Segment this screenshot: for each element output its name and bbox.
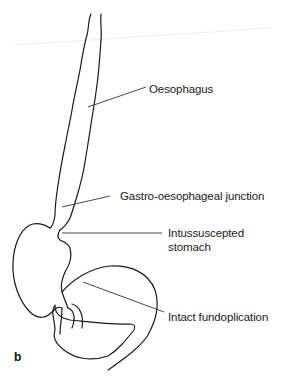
wrap-strand-1 bbox=[60, 308, 62, 334]
scan-artifact-line bbox=[15, 28, 270, 45]
wrap-strand-2 bbox=[68, 308, 74, 328]
label-oesophagus: Oesophagus bbox=[149, 83, 213, 96]
oesophagus-left-wall bbox=[50, 14, 91, 228]
label-fundoplication: Intact fundoplication bbox=[168, 311, 268, 324]
oesophagus-right-wall bbox=[60, 14, 101, 230]
label-intussuscepted-line1: Intussuscepted bbox=[168, 227, 244, 240]
leader-fundoplication bbox=[83, 282, 164, 312]
panel-label: b bbox=[14, 350, 21, 364]
fundoplication-lower-lobe bbox=[53, 305, 135, 359]
ge-junction-notch bbox=[58, 230, 71, 308]
label-ge-junction: Gastro-oesophageal junction bbox=[120, 190, 264, 203]
leader-ge-junction bbox=[62, 196, 110, 207]
stomach-outline bbox=[13, 224, 62, 318]
label-intussuscepted-line2: stomach bbox=[168, 241, 211, 254]
